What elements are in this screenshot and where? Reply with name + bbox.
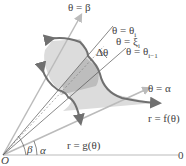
label-r-g: r = g(θ) — [67, 140, 100, 151]
label-delta-theta: Δθ — [96, 47, 108, 58]
label-theta-im1: θ = θi−1 — [126, 46, 158, 60]
label-origin: O — [1, 155, 9, 166]
label-theta-im1-sub: i−1 — [148, 52, 157, 60]
label-theta-im1-main: θ = θ — [126, 45, 148, 57]
label-beta: β — [27, 144, 32, 155]
label-alpha: α — [40, 145, 46, 156]
label-theta-alpha: θ = α — [148, 83, 171, 94]
arc-alpha — [34, 141, 37, 155]
label-r-f: r = f(θ) — [148, 113, 180, 124]
label-theta-beta: θ = β — [68, 2, 91, 13]
polar-area-diagram: θ = β θ = θi θ = ξi Δθ θ = θi−1 θ = α r … — [0, 0, 186, 166]
label-polar-axis: 0 — [178, 150, 184, 161]
